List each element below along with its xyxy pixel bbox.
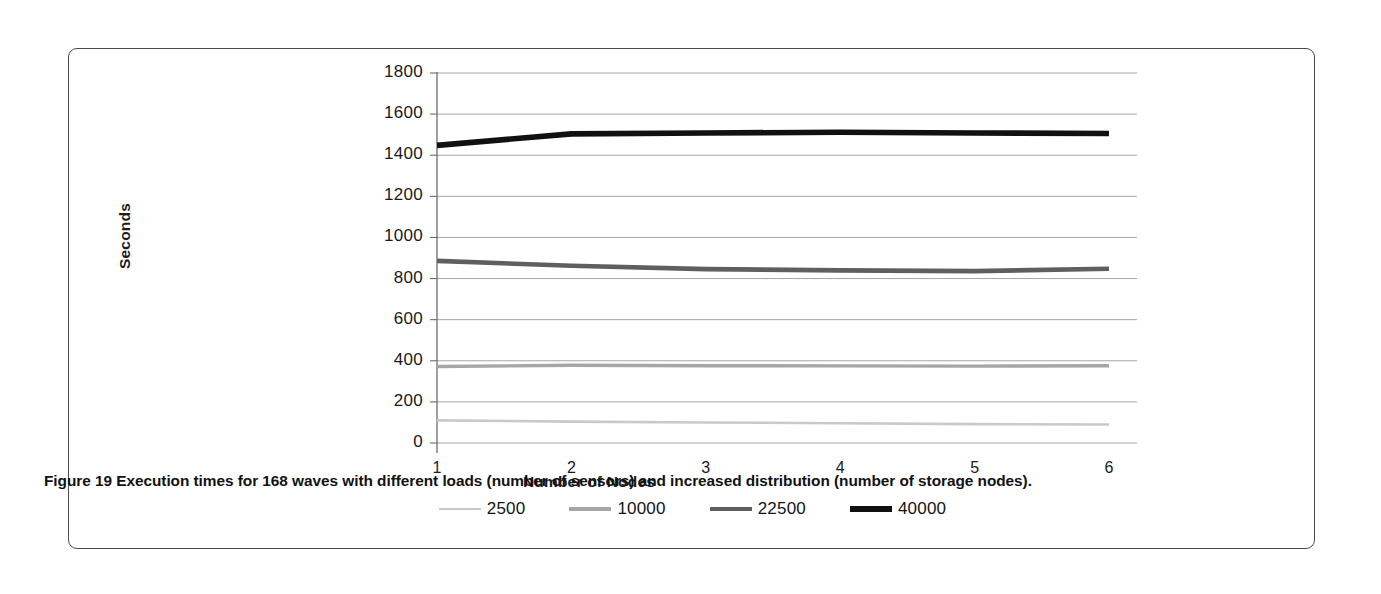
series-line-40000 bbox=[437, 132, 1109, 145]
legend-item-10000[interactable]: 10000 bbox=[569, 499, 665, 519]
y-tick-label: 400 bbox=[363, 350, 423, 370]
y-tick-label: 1600 bbox=[363, 103, 423, 123]
figure-caption: Figure 19 Execution times for 168 waves … bbox=[44, 472, 1224, 490]
y-tick-label: 600 bbox=[363, 309, 423, 329]
figure-caption-number: Figure 19 bbox=[44, 472, 112, 489]
series-line-22500 bbox=[437, 261, 1109, 271]
y-tick-label: 800 bbox=[363, 268, 423, 288]
y-tick-label: 1800 bbox=[363, 62, 423, 82]
legend-label: 22500 bbox=[758, 499, 806, 519]
figure-caption-body: Execution times for 168 waves with diffe… bbox=[112, 472, 1032, 489]
legend-swatch-icon bbox=[710, 507, 752, 512]
y-tick-label: 1400 bbox=[363, 144, 423, 164]
y-tick-label: 0 bbox=[363, 432, 423, 452]
legend-item-2500[interactable]: 2500 bbox=[439, 499, 526, 519]
chart-legend: 2500100002250040000 bbox=[69, 499, 1316, 519]
legend-label: 10000 bbox=[617, 499, 665, 519]
series-line-10000 bbox=[437, 365, 1109, 366]
y-tick-label: 200 bbox=[363, 391, 423, 411]
legend-item-22500[interactable]: 22500 bbox=[710, 499, 806, 519]
y-axis-title: Seconds bbox=[116, 156, 134, 316]
y-tick-label: 1000 bbox=[363, 226, 423, 246]
legend-label: 40000 bbox=[898, 499, 946, 519]
y-tick-label: 1200 bbox=[363, 185, 423, 205]
legend-swatch-icon bbox=[850, 506, 892, 512]
series-line-2500 bbox=[437, 420, 1109, 424]
legend-label: 2500 bbox=[487, 499, 526, 519]
legend-swatch-icon bbox=[439, 508, 481, 511]
legend-swatch-icon bbox=[569, 507, 611, 510]
legend-item-40000[interactable]: 40000 bbox=[850, 499, 946, 519]
